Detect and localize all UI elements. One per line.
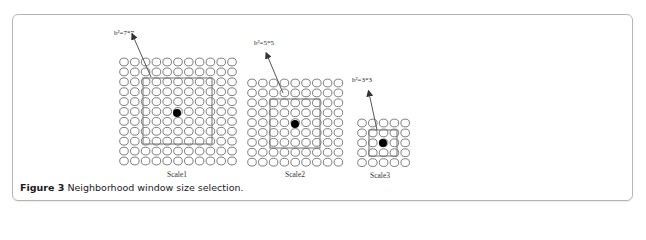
grid-circle: [185, 118, 194, 126]
grid-circle: [269, 119, 278, 127]
grid-circle: [358, 119, 367, 127]
grid-circle: [323, 109, 332, 117]
arrow-icon: [369, 93, 377, 130]
grid-circle: [206, 108, 215, 116]
grid-circle: [259, 148, 268, 156]
grid-circle: [152, 157, 161, 165]
grid-circle: [302, 79, 311, 87]
grid-circle: [228, 98, 237, 106]
grid-circle: [206, 147, 215, 155]
grid-circle: [185, 157, 194, 165]
grid-circle: [120, 68, 129, 76]
grid-circle: [280, 129, 289, 137]
grid-circle: [280, 109, 289, 117]
center-pixel-dot: [173, 109, 181, 117]
grid-circle: [228, 78, 237, 86]
grid-circle: [120, 118, 129, 126]
grid-circle: [163, 147, 172, 155]
grid-circle: [334, 139, 343, 147]
grid-circle: [152, 88, 161, 96]
grid-circle: [174, 147, 183, 155]
window-size-label: b²=5*5: [254, 39, 275, 47]
grid-circle: [323, 119, 332, 127]
grid-circle: [358, 129, 367, 137]
grid-circle: [152, 78, 161, 86]
grid-circle: [141, 157, 150, 165]
grid-circle: [280, 119, 289, 127]
grid-circle: [217, 127, 226, 135]
grid-circle: [152, 98, 161, 106]
grid-circle: [269, 109, 278, 117]
grid-circle: [291, 79, 300, 87]
grid-circle: [152, 108, 161, 116]
grid-circle: [302, 148, 311, 156]
grid-circle: [401, 139, 410, 147]
grid-circle: [217, 58, 226, 66]
grid-circle: [291, 99, 300, 107]
grid-circle: [248, 89, 257, 97]
grid-circle: [379, 159, 388, 167]
grid-circle: [401, 119, 410, 127]
arrow-icon: [133, 36, 151, 77]
grid-circle: [280, 79, 289, 87]
grid-circle: [369, 139, 378, 147]
scale-group-1: b²=7*7Scale1: [114, 29, 236, 179]
grid-circle: [206, 78, 215, 86]
grid-circle: [248, 148, 257, 156]
grid-circle: [163, 58, 172, 66]
grid-circle: [334, 129, 343, 137]
grid-circle: [120, 98, 129, 106]
grid-circle: [334, 89, 343, 97]
grid-circle: [185, 68, 194, 76]
grid-circle: [195, 58, 204, 66]
grid-circle: [313, 89, 322, 97]
grid-circle: [334, 119, 343, 127]
grid-circle: [174, 118, 183, 126]
grid-circle: [120, 88, 129, 96]
grid-circle: [390, 119, 399, 127]
grid-circle: [269, 79, 278, 87]
grid-circle: [228, 147, 237, 155]
grid-circle: [217, 68, 226, 76]
grid-circle: [131, 137, 140, 145]
grid-circle: [174, 68, 183, 76]
grid-circle: [174, 98, 183, 106]
grid-circle: [206, 58, 215, 66]
grid-circle: [269, 129, 278, 137]
grid-circle: [280, 139, 289, 147]
grid-circle: [152, 68, 161, 76]
grid-circle: [152, 118, 161, 126]
grid-circle: [195, 78, 204, 86]
grid-circle: [195, 98, 204, 106]
grid-circle: [259, 109, 268, 117]
grid-circle: [206, 68, 215, 76]
grid-circle: [259, 89, 268, 97]
grid-circle: [206, 88, 215, 96]
grid-circle: [174, 58, 183, 66]
grid-circle: [174, 88, 183, 96]
grid-circle: [131, 118, 140, 126]
grid-circle: [163, 118, 172, 126]
grid-circle: [131, 78, 140, 86]
grid-circle: [248, 99, 257, 107]
grid-circle: [120, 78, 129, 86]
grid-circle: [217, 118, 226, 126]
grid-circle: [195, 157, 204, 165]
grid-circle: [217, 78, 226, 86]
grid-circle: [131, 98, 140, 106]
grid-circle: [185, 147, 194, 155]
grid-circle: [291, 148, 300, 156]
grid-circle: [280, 148, 289, 156]
grid-circle: [163, 127, 172, 135]
grid-circle: [185, 58, 194, 66]
grid-circle: [131, 58, 140, 66]
grid-circle: [120, 137, 129, 145]
grid-circle: [217, 157, 226, 165]
grid-circle: [302, 99, 311, 107]
grid-circle: [131, 147, 140, 155]
grid-circle: [323, 129, 332, 137]
grid-circle: [163, 88, 172, 96]
grid-circle: [163, 98, 172, 106]
caption-text: Neighborhood window size selection.: [67, 182, 243, 193]
grid-circle: [152, 127, 161, 135]
